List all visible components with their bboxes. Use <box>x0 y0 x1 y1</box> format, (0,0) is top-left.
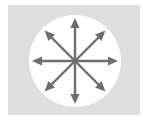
radial-arrows-diagram <box>0 0 148 123</box>
arrow-group <box>32 18 118 104</box>
figure-root <box>0 0 148 123</box>
